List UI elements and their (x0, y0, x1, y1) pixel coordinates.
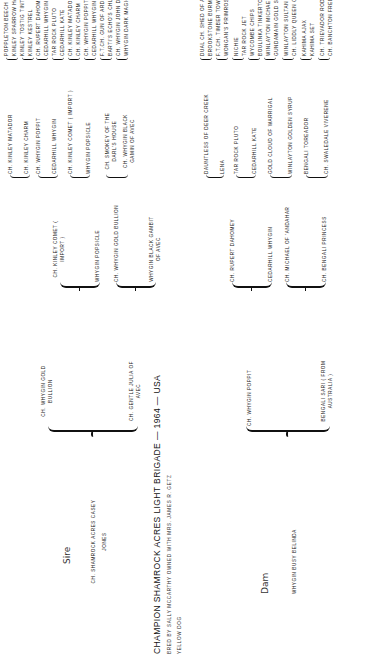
pedigree-title: CHAMPION SHAMROCK ACRES LIGHT BRIGADE — … (152, 375, 162, 654)
gen4-1: CH. KINLEY CHARM (24, 121, 30, 174)
gen2-sire-sire: CH. WHYGIN GOLD BULLION (40, 356, 54, 426)
bracket-g4-9 (216, 57, 228, 60)
gen4-0: CH. KINLEY MATADOR (8, 114, 14, 174)
gen4-4: CH. KINLEY COMET ( IMPORT ) (68, 90, 74, 174)
gen3-4: CH. RUPERT DAHOMEY (230, 219, 236, 282)
gen3-2: CH. WHYGIN GOLD BULLION (114, 205, 120, 282)
bracket-g4-14 (300, 57, 312, 60)
gen1-dam: WHYGIN BUSY BELINDA (292, 529, 298, 594)
gen5-29: KAHIMA SET (310, 22, 316, 56)
bracket-g3-6 (270, 174, 292, 178)
pedigree-page: CHAMPION SHAMROCK ACRES LIGHT BRIGADE — … (0, 0, 376, 664)
gen2-dam-dam: BENGALI SARI ( FROM AUSTRALIA ) (320, 356, 334, 426)
gen5-19: WONGAN'S PRIMROSE (224, 0, 230, 56)
gen5-3: KINLEY KESTREL (28, 9, 34, 56)
gen3-3: WHYGIN BLACK GAMBIT OF AVEC (148, 214, 162, 284)
bracket-g4-13 (282, 57, 294, 60)
gen4-6: CH. SMOKEY OF THE DARL'S HOUSE (104, 106, 118, 176)
bracket-g3-2 (70, 174, 90, 178)
gen5-1: KINLEY SPARROW HAWK (12, 0, 18, 56)
bracket-g4-4 (68, 57, 80, 60)
gen5-14: CH. WHYGIN JOHN DUCK (116, 0, 122, 56)
gen3-1: WHYGIN POPSICLE (95, 230, 101, 282)
bracket-g4-3 (52, 57, 64, 60)
gen1-sire-line1: CH. SHAMROCK ACRES CASEY JONES (88, 499, 110, 584)
bracket-g4-5 (84, 57, 96, 60)
breeder-owner-line: BRED BY SALLY MCCARTHY OWNED WITH MRS. J… (167, 475, 172, 654)
gen5-17: BROOKSTONE BURMA (208, 0, 214, 56)
bracket-g4-10 (232, 57, 244, 60)
gen5-27: CH. LIDDLY QUEEN CAKE (292, 0, 298, 56)
bracket-g4-7 (116, 57, 128, 60)
gen5-15: WHYGIN DARK MAGIC (124, 0, 130, 56)
gen5-23: BOULINKA TINKERTOT (258, 0, 264, 56)
gen4-15: CH. SWALEDALE VIVERENE (324, 99, 330, 174)
bracket-g4-1 (22, 57, 34, 60)
color-sex-line: YELLOW DOG (177, 616, 182, 654)
bracket-g2-0 (60, 282, 100, 288)
gen5-10: CH. WHYGIN POPPIT (84, 0, 90, 56)
gen4-10: TAR ROCK PLUTO (234, 126, 240, 174)
gen4-11: CEDARHILL KATE (252, 127, 258, 174)
sire-bracket (48, 426, 138, 432)
gen5-20: NICHIE (234, 37, 240, 56)
bracket-g4-6 (100, 57, 112, 60)
dam-label: Dam (260, 573, 270, 594)
bracket-g4-0 (6, 57, 18, 60)
gen4-9: LENA (220, 160, 226, 174)
bracket-g4-12 (264, 57, 276, 60)
gen5-24: WINLAYTON MICHAEL (266, 0, 272, 56)
sire-label: Sire (62, 547, 72, 564)
bracket-g4-8 (200, 57, 212, 60)
gen4-5: WHYGIN POPSICLE (86, 122, 92, 174)
bracket-g3-7 (306, 174, 328, 178)
bracket-g4-11 (248, 57, 260, 60)
bracket-g3-0 (10, 174, 30, 178)
gen5-25: GUNDAMAIN GOLD SKY (274, 0, 280, 56)
gen5-28: KAHIMA AJAX (302, 20, 308, 56)
gen5-9: CH. KINLEY CHARM (76, 3, 82, 56)
gen4-14: BENGALI TOREADOR (304, 117, 310, 174)
gen5-12: F.T.CH. GUN OF ARDEN (100, 0, 106, 56)
gen5-16: DUAL CH. SHED OF ARDEN (200, 0, 206, 56)
gen1-sire: CH. SHAMROCK ACRES CASEY JONES (88, 499, 110, 584)
gen5-11: CEDARHILL WHYGIN (92, 1, 98, 56)
gen4-8: DAUNTLESS OF DEER CREEK (204, 94, 210, 174)
bracket-g2-2 (232, 282, 272, 288)
gen5-0: POPPLETON BEECH FLIGHT (4, 0, 10, 56)
gen5-2: KINLEY TOSTIG TINTAGEL (20, 0, 26, 56)
gen5-4: CH. RUPERT DAHOMEY (36, 0, 42, 56)
bracket-g3-4 (206, 174, 224, 178)
gen5-8: CH. KINLEY MATADOR (68, 0, 74, 56)
bracket-g3-5 (236, 174, 256, 178)
gen2-dam-sire: CH. WHYGIN POPPIT (247, 370, 253, 426)
gen5-31: CH. BANCHTON FREDA (328, 0, 334, 56)
gen4-7: CH. WHYGIN BLACK GAMIN OF AVEC (122, 106, 136, 176)
dam-bracket (246, 426, 330, 432)
gen4-13: WINLAYTON GOLDEN SYRUP (288, 96, 294, 174)
gen4-12: GOLD CLOUD OF WARRIGAL (268, 97, 274, 174)
gen5-26: WINLAYTON SULTAN (284, 1, 290, 56)
gen5-21: TAR ROCK JET (242, 16, 248, 56)
bracket-g4-2 (36, 57, 48, 60)
gen5-5: CEDARHILL WHYGIN (44, 1, 50, 56)
gen3-7: CH. BENGALI PRINCESS (322, 216, 328, 282)
bracket-g3-1 (38, 174, 58, 178)
gen4-2: CH. WHYGIN POPPIT (36, 118, 42, 174)
gen5-6: TAR ROCK PLUTO (52, 8, 58, 56)
gen3-5: CEDARHILL WHYGIN (268, 227, 274, 282)
gen5-18: F.T.CH. TIMBER TOWN CLANSMAN (216, 0, 222, 56)
gen3-0: CH. KINLEY COMET ( IMPORT ) (52, 214, 66, 284)
gen2-sire-dam: CH. GENTLE JULIA OF AVEC (128, 356, 142, 426)
gen4-3: CEDARHILL WHYGIN (52, 119, 58, 174)
bracket-g2-3 (286, 282, 326, 288)
bracket-g4-15 (318, 57, 330, 60)
gen5-13: BARTI'S ECHO'S CHLOE (108, 0, 114, 56)
gen5-7: CEDARHILL KATE (60, 9, 66, 56)
gen5-30: CH. TRIEVADOR RODERICK (320, 0, 326, 56)
gen3-6: CH. MICHAEL OF 'ANDAHAR (285, 206, 291, 282)
gen5-22: WYCOMBE CHIPS (250, 9, 256, 56)
